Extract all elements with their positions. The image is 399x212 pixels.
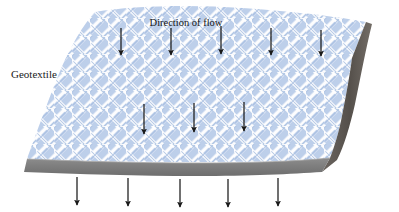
geotextile-diagram: Geotextile Direction of flow (0, 0, 399, 212)
geotextile-sheet (0, 0, 399, 212)
direction-of-flow-label: Direction of flow (150, 17, 223, 28)
geotextile-label: Geotextile (11, 68, 57, 80)
flow-arrows-below-row (77, 177, 278, 207)
fabric-highlight (0, 0, 399, 212)
figure-canvas: Geotextile Direction of flow (0, 0, 399, 212)
